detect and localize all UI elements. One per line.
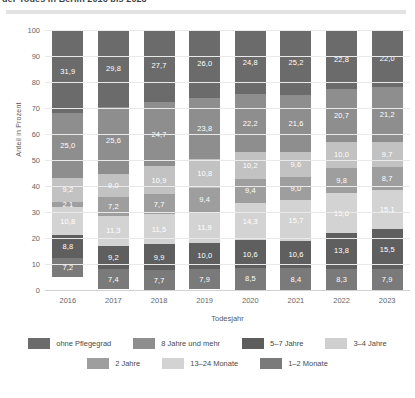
- bar-segment: 9,7: [372, 142, 403, 167]
- x-axis-tick: 2020: [227, 296, 273, 305]
- bar-segment: 22,8: [326, 30, 357, 89]
- x-axis-tick: 2018: [136, 296, 182, 305]
- gridline: [45, 134, 410, 135]
- bar-segment: 9,8: [326, 168, 357, 193]
- bar-segment: 9,0: [280, 177, 311, 200]
- bar-segment: 14,3: [235, 203, 266, 240]
- y-axis-tick: 30: [14, 208, 40, 217]
- bar-segment: 29,8: [98, 30, 129, 107]
- bar-segment: 9,4: [235, 179, 266, 203]
- bar-segment: 21,6: [280, 95, 311, 151]
- chart-legend: ohne Pflegegrad8 Jahre und mehr5–7 Jahre…: [0, 338, 415, 378]
- bar-segment: 8,3: [326, 269, 357, 290]
- y-axis-tick: 90: [14, 52, 40, 61]
- legend-item[interactable]: 5–7 Jahre: [242, 338, 303, 349]
- y-axis-tick: 60: [14, 130, 40, 139]
- stacked-bar-chart: Anteil in Prozent 31,925,09,22,110,88,87…: [0, 18, 415, 330]
- bar-segment: 15,6: [326, 193, 357, 233]
- legend-label: 3–4 Jahre: [353, 339, 386, 348]
- bar-segment: 22,2: [235, 94, 266, 152]
- bar-segment: 7,9: [189, 269, 220, 290]
- bar-segment: 25,6: [98, 107, 129, 174]
- y-axis-tick: 20: [14, 234, 40, 243]
- legend-label: 5–7 Jahre: [270, 339, 303, 348]
- bar-segment: 7,2: [52, 258, 83, 277]
- legend-item[interactable]: 2 Jahre: [87, 358, 140, 369]
- bar-segment: 10,9: [144, 166, 175, 194]
- x-axis-tick: 2022: [319, 296, 365, 305]
- gridline: [45, 238, 410, 239]
- bar-segment: 7,9: [372, 269, 403, 290]
- bar-segment: 7,4: [98, 269, 129, 288]
- bar-segment: 24,8: [235, 30, 266, 94]
- bar-segment: 25,0: [52, 113, 83, 178]
- legend-row: ohne Pflegegrad8 Jahre und mehr5–7 Jahre…: [0, 338, 415, 349]
- legend-label: ohne Pflegegrad: [56, 339, 111, 348]
- legend-swatch: [87, 358, 109, 369]
- bar-segment: 15,7: [280, 200, 311, 241]
- legend-label: 2 Jahre: [115, 359, 140, 368]
- legend-item[interactable]: ohne Pflegegrad: [28, 338, 111, 349]
- legend-swatch: [162, 358, 184, 369]
- y-axis-tick: 100: [14, 26, 40, 35]
- y-axis-tick: 10: [14, 260, 40, 269]
- gridline: [45, 82, 410, 83]
- bar-segment: 26,0: [189, 30, 220, 98]
- y-axis-tick: 80: [14, 78, 40, 87]
- bar-segment: 9,2: [98, 246, 129, 270]
- bar-segment: 11,3: [98, 216, 129, 245]
- legend-row: 2 Jahre13–24 Monate1–2 Monate: [0, 358, 415, 369]
- legend-item[interactable]: 8 Jahre und mehr: [133, 338, 220, 349]
- bar-segment: 9,4: [189, 188, 220, 212]
- legend-label: 1–2 Monate: [288, 359, 328, 368]
- gridline: [45, 108, 410, 109]
- gridline: [45, 212, 410, 213]
- bar-segment: 7,2: [98, 197, 129, 216]
- y-axis-tick: 70: [14, 104, 40, 113]
- bar-segment: 8,5: [235, 268, 266, 290]
- legend-item[interactable]: 1–2 Monate: [260, 358, 328, 369]
- x-axis-label: Todesjahr: [45, 314, 410, 323]
- legend-swatch: [28, 338, 50, 349]
- x-axis-tick: 2021: [273, 296, 319, 305]
- y-axis-tick: 50: [14, 156, 40, 165]
- gridline: [45, 56, 410, 57]
- title-divider: [6, 10, 406, 14]
- legend-swatch: [260, 358, 282, 369]
- x-axis-tick: 2017: [90, 296, 136, 305]
- legend-label: 8 Jahre und mehr: [161, 339, 220, 348]
- legend-label: 13–24 Monate: [190, 359, 238, 368]
- bar-segment: 8,4: [280, 268, 311, 290]
- legend-swatch: [133, 338, 155, 349]
- gridline: [45, 160, 410, 161]
- bar-segment: 23,8: [189, 98, 220, 160]
- y-axis-tick: 0: [14, 286, 40, 295]
- x-axis-tick: 2016: [45, 296, 91, 305]
- legend-item[interactable]: 13–24 Monate: [162, 358, 238, 369]
- bar-segment: 27,7: [144, 30, 175, 102]
- legend-item[interactable]: 3–4 Jahre: [325, 338, 386, 349]
- bar-segment: 15,1: [372, 190, 403, 229]
- legend-swatch: [325, 338, 347, 349]
- bar-segment: 10,2: [235, 152, 266, 179]
- bar-segment: 7,7: [144, 270, 175, 290]
- page-title: der Todes in Berlin 2016 bis 2023: [2, 0, 147, 4]
- x-axis-tick: 2023: [364, 296, 410, 305]
- bar-segment: 25,2: [280, 30, 311, 95]
- gridline: [45, 264, 410, 265]
- bar-segment: 11,5: [144, 214, 175, 244]
- bar-segment: 31,9: [52, 30, 83, 113]
- x-axis-tick: 2019: [182, 296, 228, 305]
- axis-baseline: [45, 290, 410, 291]
- bar-segment: 22,0: [372, 30, 403, 87]
- bar-segment: 9,9: [144, 244, 175, 270]
- bar-segment: 10,8: [189, 159, 220, 187]
- bar-segment: 9,2: [52, 178, 83, 202]
- bar-segment: 9,6: [280, 152, 311, 177]
- gridline: [45, 30, 410, 31]
- y-axis-tick: 40: [14, 182, 40, 191]
- legend-swatch: [242, 338, 264, 349]
- bar-segment: 10,0: [189, 243, 220, 269]
- bar-segment: 10,0: [326, 142, 357, 168]
- report-title-strip: der Todes in Berlin 2016 bis 2023: [0, 0, 415, 8]
